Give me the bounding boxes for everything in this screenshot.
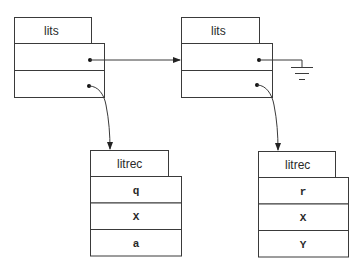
litrec-left-title: litrec <box>117 157 142 171</box>
lits-left-field-rec <box>15 71 105 98</box>
lits-node-left: lits <box>15 18 105 98</box>
litrec-node-left: litrec q X a <box>91 151 182 257</box>
lits-right-title: lits <box>211 24 226 38</box>
lits-right-field-next <box>182 44 273 71</box>
litrec-left-value: X <box>133 211 140 223</box>
linked-structure-diagram: lits lits litrec q X a litrec <box>0 0 360 272</box>
litrec-right-title: litrec <box>285 158 310 172</box>
lits-left-field-next <box>15 44 105 71</box>
litrec-node-right: litrec r X Y <box>259 152 349 258</box>
lits-left-title: lits <box>44 24 59 38</box>
litrec-right-value: Y <box>300 239 307 251</box>
litrec-right-value: r <box>300 186 307 198</box>
litrec-left-value: q <box>133 185 140 197</box>
litrec-left-value: a <box>133 238 140 250</box>
lits-right-field-rec <box>182 71 273 98</box>
litrec-right-value: X <box>300 212 307 224</box>
